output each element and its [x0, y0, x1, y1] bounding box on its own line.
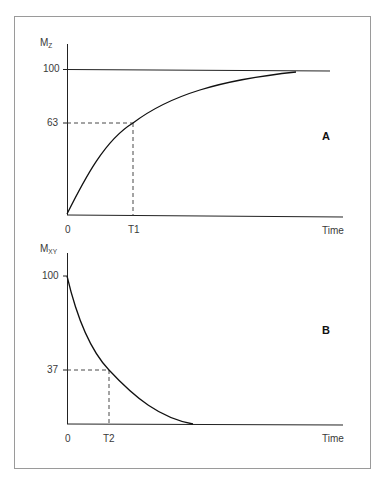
panel-b-x-tick-0: 0 — [65, 434, 71, 444]
panel-b-y-axis-label: MXY — [40, 244, 57, 256]
panel-a-x-axis-label: Time — [322, 226, 344, 236]
panel-a-y-label-sub: Z — [48, 42, 52, 49]
panel-b-x-axis-label: Time — [322, 434, 344, 444]
panel-b-decay-curve — [67, 276, 193, 424]
panel-a-x-axis — [67, 215, 343, 217]
panel-a-recovery-curve — [67, 72, 296, 214]
panel-b-y-tick-100: 100 — [42, 271, 59, 281]
panel-a-y-tick-63: 63 — [47, 118, 58, 128]
panel-b-y-label-sub: XY — [48, 248, 57, 255]
panel-a-y-tick-100: 100 — [43, 64, 60, 74]
panel-a-x-tick-t1: T1 — [128, 225, 140, 235]
panel-a-x-tick-0: 0 — [65, 225, 71, 235]
panel-b-y-tick-37: 37 — [47, 365, 58, 375]
panel-b-x-axis — [67, 424, 343, 425]
panel-a-asymptote-100 — [67, 70, 330, 72]
panel-b-x-tick-t2: T2 — [103, 434, 115, 444]
panel-a-y-axis-label: MZ — [40, 38, 52, 50]
panel-a-plot — [63, 44, 343, 217]
panel-b-plot — [63, 253, 343, 425]
panel-b-letter: B — [322, 325, 330, 336]
panel-a-letter: A — [322, 131, 330, 142]
